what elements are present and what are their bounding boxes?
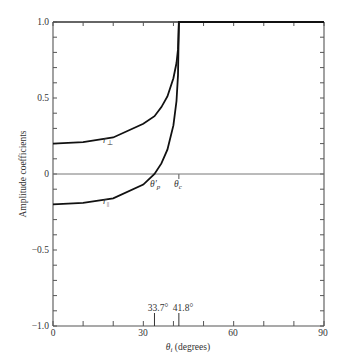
y-tick-label-0: 0 (44, 169, 49, 179)
y-tick-label-neg-1: −1.0 (32, 321, 49, 331)
angle-label-41-8: 41.8° (173, 303, 194, 313)
curve-r-perp (53, 22, 324, 144)
label-r-perp: r⊥ (103, 135, 113, 147)
label-theta-c-sub: c (179, 183, 183, 191)
y-tick-label-neg-0-5: −0.5 (32, 245, 49, 255)
label-theta-c: θc (174, 179, 183, 191)
label-r-perp-sub: ⊥ (107, 139, 113, 147)
label-theta-p: θ′p (150, 179, 161, 191)
x-axis-title: θi (degrees) (166, 342, 210, 354)
label-r-par-sub: || (107, 201, 109, 207)
x-tick-label-0: 0 (51, 328, 56, 338)
label-theta-p-sub: p (156, 183, 161, 191)
label-r-parallel: r|| (103, 196, 109, 207)
angle-label-33-7: 33.7° (148, 303, 169, 313)
y-tick-label-1: 1.0 (37, 17, 49, 27)
y-tick-label-0-5: 0.5 (37, 93, 49, 103)
x-tick-label-90: 90 (318, 328, 328, 338)
x-axis-title-rest: (degrees) (172, 342, 210, 353)
x-tick-label-60: 60 (228, 328, 238, 338)
x-tick-label-30: 30 (138, 328, 148, 338)
y-axis-title: Amplitude coefficients (18, 130, 28, 217)
amplitude-coefficients-chart: 1.0 0.5 0 −0.5 −1.0 0 30 60 90 Amplitude… (0, 0, 343, 362)
curve-r-parallel (53, 22, 324, 204)
